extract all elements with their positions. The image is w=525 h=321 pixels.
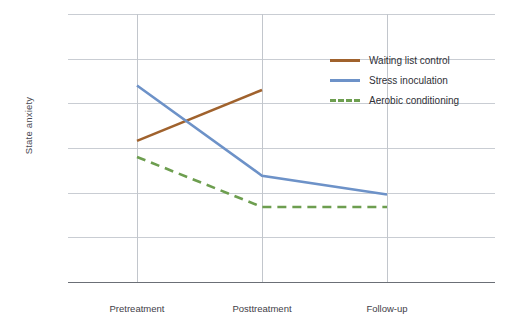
x-tick-1: Posttreatment	[192, 303, 332, 314]
legend: Waiting list controlStress inoculationAe…	[330, 50, 459, 110]
legend-swatch-icon	[330, 79, 360, 82]
line-chart: State anxiety 25303540455055 Pretreatmen…	[0, 0, 525, 321]
gridline-y-25	[68, 282, 495, 283]
legend-label: Aerobic conditioning	[369, 95, 459, 106]
legend-item-1[interactable]: Stress inoculation	[330, 70, 459, 90]
legend-swatch-icon	[330, 99, 360, 102]
y-axis-label: State anxiety	[23, 66, 34, 186]
legend-item-0[interactable]: Waiting list control	[330, 50, 459, 70]
series-line-aerobic-conditioning	[137, 157, 387, 207]
legend-swatch-icon	[330, 59, 360, 62]
x-tick-2: Follow-up	[317, 303, 457, 314]
x-tick-0: Pretreatment	[67, 303, 207, 314]
legend-label: Waiting list control	[369, 55, 450, 66]
legend-item-2[interactable]: Aerobic conditioning	[330, 90, 459, 110]
legend-label: Stress inoculation	[369, 75, 448, 86]
